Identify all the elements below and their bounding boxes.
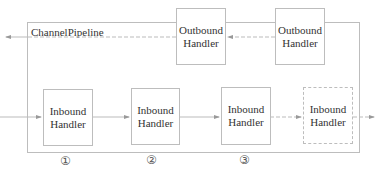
inbound-handler-2-line1: Inbound (137, 104, 174, 117)
step-marker-1: ① (60, 154, 71, 168)
inbound-handler-1: InboundHandler (43, 89, 93, 146)
inbound-handler-2-line2: Handler (137, 117, 174, 130)
inbound-handler-3-line1: Inbound (228, 103, 265, 116)
step-marker-2: ② (146, 153, 157, 167)
inbound-handler-4-pending: InboundHandler (303, 87, 353, 144)
inbound-handler-3-line2: Handler (228, 116, 265, 129)
inbound-handler-4-line1: Inbound (310, 103, 347, 116)
outbound-handler-2-line1: Outbound (278, 24, 322, 37)
outbound-handler-1-line2: Handler (179, 37, 223, 50)
inbound-handler-1-line2: Handler (50, 118, 87, 131)
outbound-handler-2: OutboundHandler (275, 8, 325, 65)
inbound-handler-3: InboundHandler (221, 87, 271, 145)
inbound-handler-2: InboundHandler (131, 88, 180, 145)
outbound-handler-1-line1: Outbound (179, 24, 223, 37)
outbound-handler-2-line2: Handler (278, 37, 322, 50)
outbound-handler-1: OutboundHandler (176, 8, 226, 65)
inbound-handler-1-line1: Inbound (50, 105, 87, 118)
step-marker-3: ③ (239, 153, 250, 167)
inbound-handler-4-line2: Handler (310, 116, 347, 129)
